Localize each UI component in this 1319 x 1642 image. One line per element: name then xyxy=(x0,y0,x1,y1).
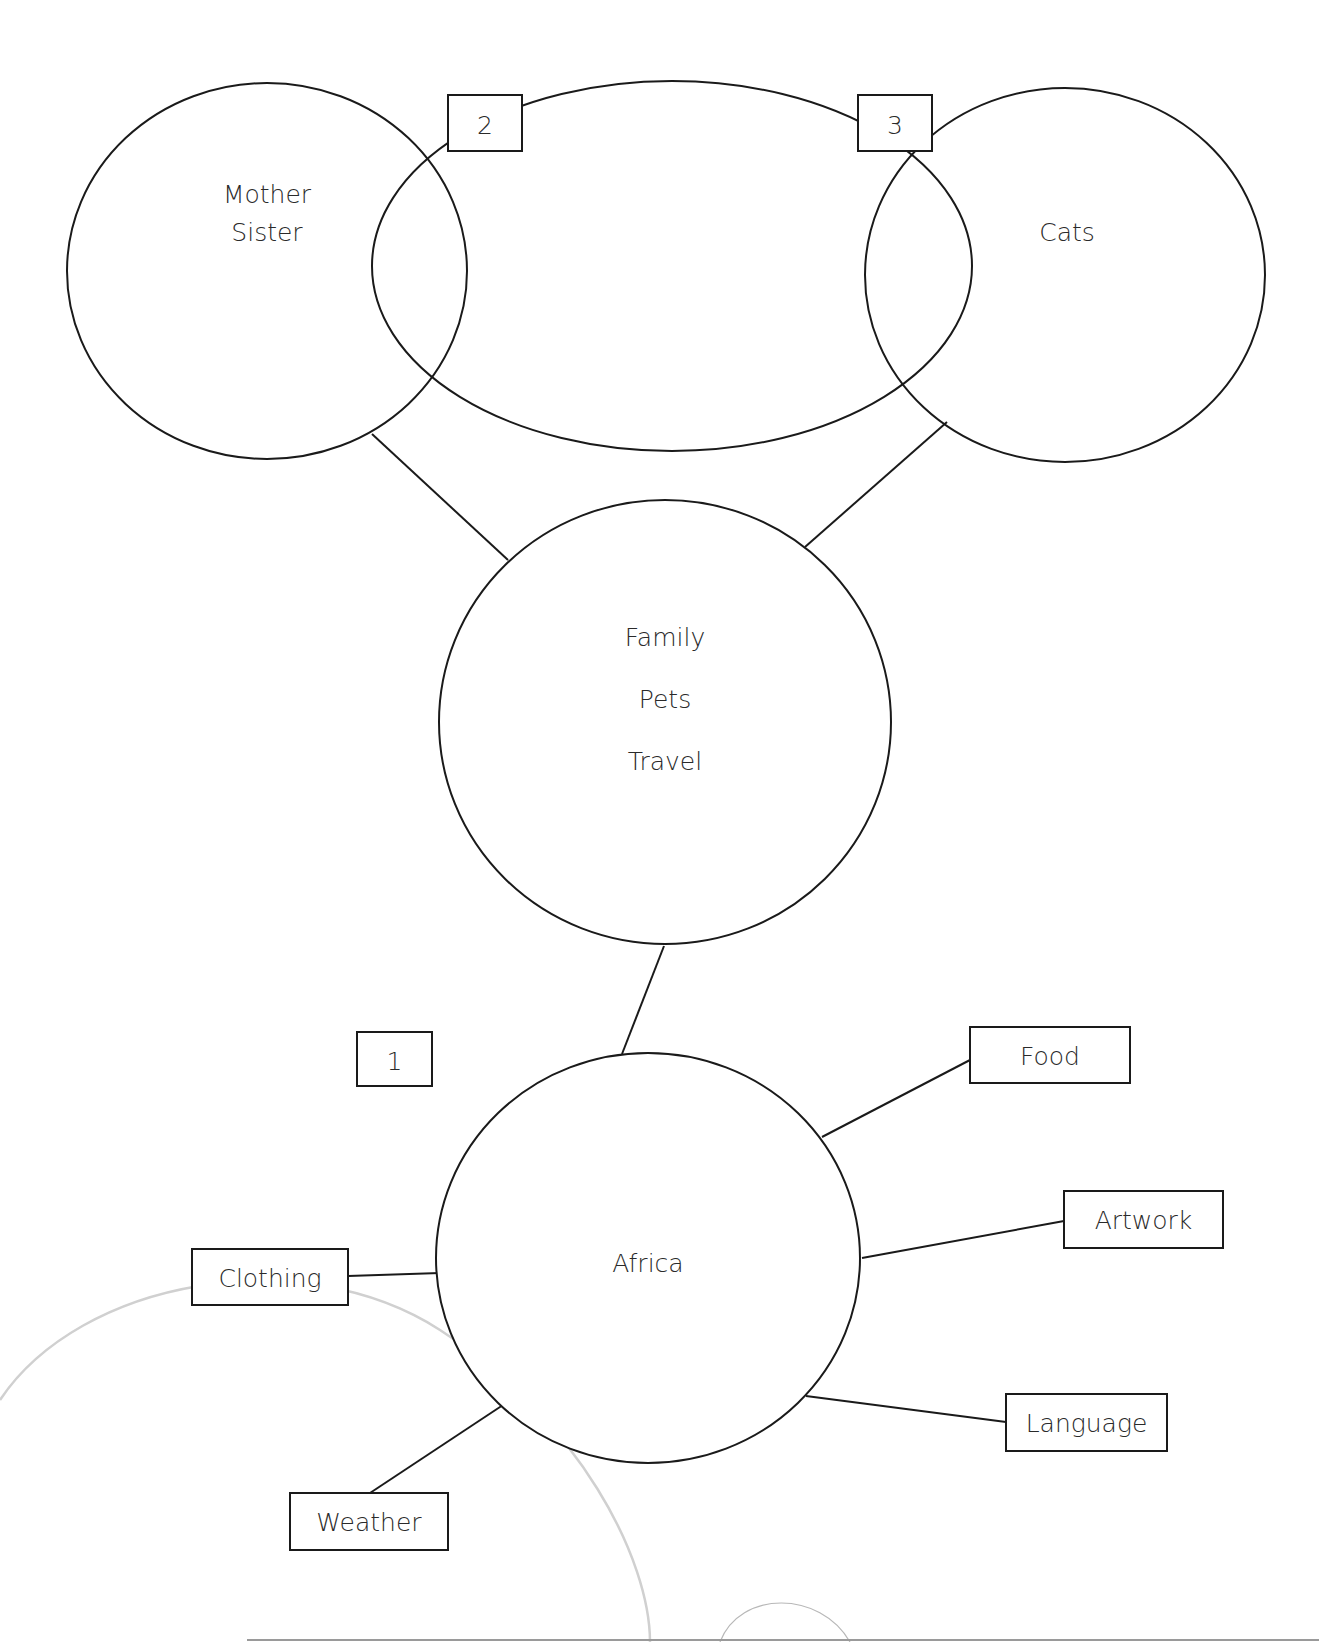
number-box-label: 1 xyxy=(387,1047,403,1076)
topic-box-artwork: Artwork xyxy=(1064,1191,1223,1248)
connector-africa-to-weather xyxy=(370,1405,503,1493)
ellipse-label-family-pets-travel-2: Travel xyxy=(628,747,702,776)
ellipse-mother-sister xyxy=(67,83,467,459)
number-box-3: 3 xyxy=(858,95,932,151)
connector-cats-to-family xyxy=(805,422,947,547)
ellipse-label-mother-sister-1: Sister xyxy=(231,218,303,247)
topic-box-label: Weather xyxy=(316,1508,422,1537)
faint-semicircle xyxy=(720,1603,850,1642)
ellipse-label-africa-0: Africa xyxy=(612,1249,683,1278)
ellipse-label-family-pets-travel-0: Family xyxy=(625,623,705,652)
ellipse-label-mother-sister-0: Mother xyxy=(223,180,312,209)
topic-box-language: Language xyxy=(1006,1394,1167,1451)
connector-africa-to-clothing xyxy=(348,1273,440,1276)
ellipse-label-family-pets-travel-1: Pets xyxy=(639,685,691,714)
concept-ellipse-outlines xyxy=(67,81,1265,462)
topic-box-label: Artwork xyxy=(1095,1206,1193,1235)
topic-box-food: Food xyxy=(970,1027,1130,1083)
ellipse-family-pets-travel xyxy=(439,500,891,944)
connector-africa-to-food xyxy=(822,1060,970,1137)
topic-box-label: Clothing xyxy=(218,1264,321,1293)
number-box-1: 1 xyxy=(357,1032,432,1086)
connector-mother-to-family xyxy=(372,434,508,560)
number-box-label: 2 xyxy=(477,111,493,140)
topic-box-label: Language xyxy=(1026,1409,1148,1438)
connector-africa-to-language xyxy=(806,1396,1006,1422)
connector-africa-to-artwork xyxy=(862,1221,1064,1258)
connector-family-to-africa xyxy=(622,946,664,1054)
topic-box-clothing: Clothing xyxy=(192,1249,348,1305)
topic-box-weather: Weather xyxy=(290,1493,448,1550)
number-box-label: 3 xyxy=(887,111,903,140)
number-box-2: 2 xyxy=(448,95,522,151)
ellipse-label-cats-0: Cats xyxy=(1039,218,1095,247)
concept-map-diagram: 231 FoodArtworkClothingLanguageWeather M… xyxy=(0,0,1319,1642)
topic-box-label: Food xyxy=(1020,1042,1080,1071)
